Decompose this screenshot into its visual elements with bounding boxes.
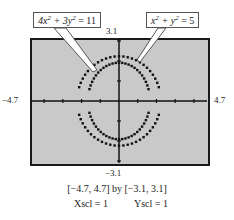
eq-part: = 5 <box>179 15 195 26</box>
callout-pointer-circle <box>137 28 166 62</box>
xmax-label: 4.7 <box>214 95 225 105</box>
eq-part: + y <box>159 15 175 26</box>
eq-part: + 3y <box>51 15 72 26</box>
ymax-label: 3.1 <box>106 26 117 36</box>
eq-part: = 11 <box>76 15 96 26</box>
ymin-label: −3.1 <box>105 168 121 178</box>
window-caption: [−4.7, 4.7] by [−3.1, 3.1] <box>0 183 234 194</box>
yscl-caption: Yscl = 1 <box>134 198 168 209</box>
xscl-caption: Xscl = 1 <box>74 198 108 209</box>
callout-ellipse-equation: 4x2 + 3y2 = 11 <box>33 12 101 28</box>
axes <box>31 39 207 163</box>
callout-circle-equation: x2 + y2 = 5 <box>146 12 199 28</box>
xmin-label: −4.7 <box>2 95 18 105</box>
callout-pointer-ellipse <box>54 28 97 72</box>
